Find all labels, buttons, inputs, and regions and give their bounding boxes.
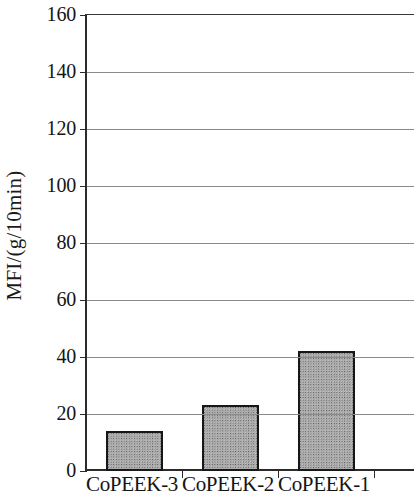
bar [202, 405, 259, 471]
y-axis-tick-mark [80, 300, 87, 301]
y-axis-tick-mark [80, 15, 87, 16]
y-axis-tick-label: 140 [47, 60, 76, 83]
y-axis-tick-label: 80 [56, 231, 76, 254]
x-axis-category-label: CoPEEK-2 [182, 472, 274, 497]
x-axis-category-label: CoPEEK-1 [278, 472, 370, 497]
y-axis-title: MFI/(g/10min) [0, 0, 30, 470]
y-axis-tick-label: 160 [47, 3, 76, 26]
gridline [87, 357, 414, 358]
y-axis-tick-label: 120 [47, 117, 76, 140]
y-axis-tick-mark [80, 186, 87, 187]
y-axis-title-text: MFI/(g/10min) [3, 170, 28, 300]
y-axis-tick-label: 60 [56, 288, 76, 311]
bar [298, 351, 355, 471]
x-axis-category-label: CoPEEK-3 [86, 472, 178, 497]
y-axis-tick-mark [80, 357, 87, 358]
gridline [87, 186, 414, 187]
y-axis-tick-mark [80, 414, 87, 415]
y-axis-tick-label: 100 [47, 174, 76, 197]
y-axis-tick-mark [80, 129, 87, 130]
plot-area [85, 14, 414, 471]
gridline [87, 243, 414, 244]
bar [106, 431, 163, 471]
y-axis-tick-label: 20 [56, 402, 76, 425]
y-axis-tick-labels: 020406080100120140160 [30, 0, 82, 502]
y-axis-tick-mark [80, 72, 87, 73]
gridline [87, 414, 414, 415]
gridline [87, 300, 414, 301]
y-axis-tick-label: 0 [66, 459, 76, 482]
y-axis-tick-label: 40 [56, 345, 76, 368]
gridline [87, 72, 414, 73]
y-axis-tick-mark [80, 243, 87, 244]
x-axis-category-labels: CoPEEK-3CoPEEK-2CoPEEK-1 [85, 472, 412, 502]
gridline [87, 129, 414, 130]
